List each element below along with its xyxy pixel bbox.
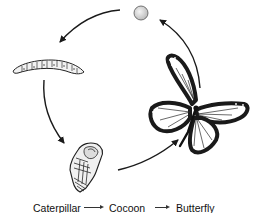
caption-caterpillar: Caterpillar — [33, 202, 81, 213]
caption-row: Caterpillar Cocoon Butterfly — [0, 202, 256, 213]
cocoon-illustration — [70, 143, 102, 192]
caption-butterfly: Butterfly — [176, 202, 215, 213]
butterfly-illustration — [150, 56, 247, 153]
arrow-caterpillar-to-cocoon — [44, 80, 64, 143]
caption-cocoon: Cocoon — [109, 202, 145, 213]
caption-arrow-icon — [84, 207, 101, 208]
arrow-cocoon-to-butterfly — [118, 140, 178, 170]
life-cycle-diagram: Caterpillar Cocoon Butterfly — [0, 0, 256, 213]
egg-illustration — [134, 6, 148, 20]
arrow-egg-to-caterpillar — [60, 10, 120, 42]
caption-arrow-icon — [155, 207, 167, 208]
caterpillar-illustration — [13, 60, 84, 74]
